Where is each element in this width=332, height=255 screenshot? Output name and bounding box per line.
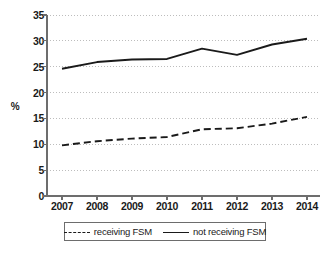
x-axis-tick-labels: 20072008200920102011201220132014 <box>0 200 332 216</box>
legend-swatch-dashed-icon <box>64 228 90 236</box>
line-chart: % 05101520253035 20072008200920102011201… <box>0 0 332 255</box>
x-tick-label: 2010 <box>156 200 178 212</box>
plot-area <box>0 0 332 255</box>
series-line-receiving-fsm <box>62 117 307 145</box>
legend-label-receiving-fsm: receiving FSM <box>94 226 152 237</box>
legend-item-receiving-fsm: receiving FSM <box>64 226 152 237</box>
x-tick-label: 2009 <box>121 200 143 212</box>
x-tick-label: 2011 <box>191 200 213 212</box>
x-tick-label: 2012 <box>226 200 248 212</box>
legend-swatch-solid-icon <box>163 228 189 236</box>
x-tick-label: 2007 <box>51 200 73 212</box>
legend-label-not-receiving-fsm: not receiving FSM <box>193 226 266 237</box>
chart-legend: receiving FSM not receiving FSM <box>64 222 266 241</box>
series-line-not-receiving-fsm <box>62 39 307 69</box>
x-tick-label: 2008 <box>86 200 108 212</box>
x-tick-label: 2013 <box>261 200 283 212</box>
legend-item-not-receiving-fsm: not receiving FSM <box>163 226 266 237</box>
x-tick-label: 2014 <box>296 200 318 212</box>
